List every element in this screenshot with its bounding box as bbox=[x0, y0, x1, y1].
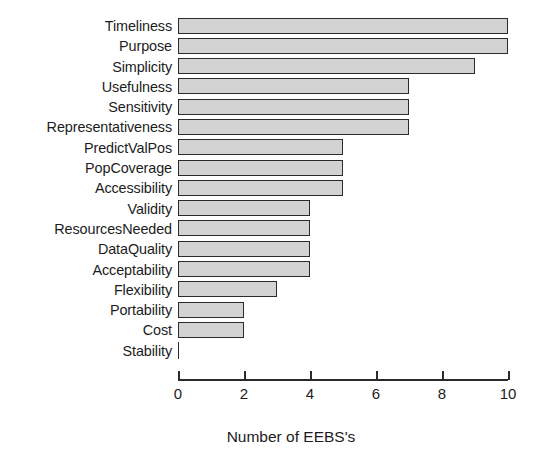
category-label: Representativeness bbox=[0, 117, 172, 137]
category-label: Stability bbox=[0, 341, 172, 361]
category-label: Flexibility bbox=[0, 280, 172, 300]
category-label: Accessibility bbox=[0, 178, 172, 198]
bar-row bbox=[178, 178, 537, 198]
category-label: PopCoverage bbox=[0, 158, 172, 178]
x-axis-title: Number of EEBS's bbox=[0, 428, 537, 446]
category-axis: TimelinessPurposeSimplicityUsefulnessSen… bbox=[0, 16, 172, 361]
bar-row bbox=[178, 239, 537, 259]
x-tick bbox=[310, 371, 312, 380]
bar bbox=[178, 160, 343, 176]
bar-row bbox=[178, 117, 537, 137]
category-label: Sensitivity bbox=[0, 97, 172, 117]
bar bbox=[178, 322, 244, 338]
bar-row bbox=[178, 158, 537, 178]
bar-row bbox=[178, 219, 537, 239]
x-tick bbox=[442, 371, 444, 380]
category-label: Portability bbox=[0, 300, 172, 320]
bar bbox=[178, 99, 409, 115]
x-tick-label: 2 bbox=[240, 385, 248, 402]
bar-row bbox=[178, 97, 537, 117]
category-label: Timeliness bbox=[0, 16, 172, 36]
bar-chart: TimelinessPurposeSimplicityUsefulnessSen… bbox=[0, 0, 537, 463]
x-axis-line bbox=[178, 379, 508, 381]
category-label: Purpose bbox=[0, 36, 172, 56]
bar-row bbox=[178, 300, 537, 320]
category-label: Validity bbox=[0, 199, 172, 219]
bar bbox=[178, 119, 409, 135]
x-tick-label: 6 bbox=[372, 385, 380, 402]
bar-row bbox=[178, 138, 537, 158]
bar bbox=[178, 281, 277, 297]
bar bbox=[178, 18, 508, 34]
category-label: Cost bbox=[0, 320, 172, 340]
bar bbox=[178, 180, 343, 196]
bar bbox=[178, 200, 310, 216]
x-tick bbox=[508, 371, 510, 380]
x-tick bbox=[244, 371, 246, 380]
bar bbox=[178, 261, 310, 277]
category-label: Simplicity bbox=[0, 57, 172, 77]
bar-row bbox=[178, 280, 537, 300]
bar-row bbox=[178, 57, 537, 77]
plot-area bbox=[178, 16, 537, 379]
bar-row bbox=[178, 260, 537, 280]
x-tick-label: 8 bbox=[438, 385, 446, 402]
bar bbox=[178, 342, 179, 359]
category-label: Acceptability bbox=[0, 260, 172, 280]
category-label: DataQuality bbox=[0, 239, 172, 259]
category-label: PredictValPos bbox=[0, 138, 172, 158]
bar-row bbox=[178, 77, 537, 97]
x-tick bbox=[178, 371, 180, 380]
x-tick-label: 4 bbox=[306, 385, 314, 402]
bar bbox=[178, 38, 508, 54]
bar bbox=[178, 58, 475, 74]
x-axis: 0246810 bbox=[178, 379, 508, 380]
x-tick-label: 0 bbox=[174, 385, 182, 402]
bar bbox=[178, 302, 244, 318]
bar bbox=[178, 78, 409, 94]
bar-row bbox=[178, 320, 537, 340]
x-tick bbox=[376, 371, 378, 380]
x-tick-label: 10 bbox=[500, 385, 517, 402]
bar bbox=[178, 241, 310, 257]
category-label: ResourcesNeeded bbox=[0, 219, 172, 239]
bar bbox=[178, 220, 310, 236]
bar-row bbox=[178, 16, 537, 36]
bar-row bbox=[178, 341, 537, 361]
bar bbox=[178, 139, 343, 155]
bar-row bbox=[178, 199, 537, 219]
category-label: Usefulness bbox=[0, 77, 172, 97]
bar-row bbox=[178, 36, 537, 56]
